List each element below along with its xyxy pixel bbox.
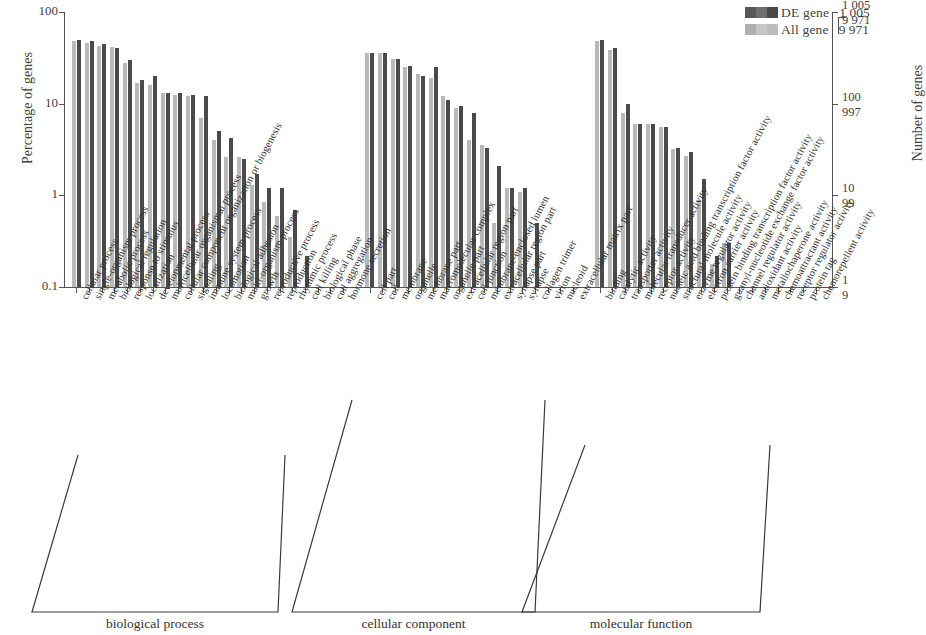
y-tick-label-right-de: 100 (842, 90, 902, 105)
y-tick-label-left: 0.1 (14, 278, 58, 294)
bar-group (402, 12, 415, 287)
bar-all-gene (85, 43, 89, 287)
x-tick-mark (600, 287, 601, 293)
bar-group (70, 12, 83, 287)
y-tick-label-right-all: 9 971 (842, 13, 902, 28)
bar-all-gene (595, 41, 599, 287)
bar-de-gene (613, 48, 617, 287)
y-tick-label-left: 10 (14, 95, 58, 111)
bar-de-gene (626, 104, 630, 287)
bar-all-gene (621, 113, 625, 287)
y-tick-label-right-all: 9 (842, 288, 902, 303)
group-name-cellular-component: cellular component (292, 616, 535, 632)
bar-group (83, 12, 96, 287)
bar-all-gene (429, 78, 433, 287)
y-tick-label-right-de: 1 (842, 273, 902, 288)
group-name-molecular-function: molecular function (522, 616, 760, 632)
y-tick-label-right-all: 997 (842, 105, 902, 120)
bar-all-gene (97, 46, 101, 287)
group-name-biological-process: biological process (32, 616, 278, 632)
bar-group (619, 12, 632, 287)
y-tick-label-left: 100 (14, 3, 58, 19)
y-tick-label-left: 1 (14, 186, 58, 202)
y-axis-title-right: Number of genes (910, 23, 926, 203)
x-tick-mark (76, 287, 77, 293)
y-tick-label-right-de: 1 005 (842, 0, 902, 13)
bar-de-gene (434, 67, 438, 287)
bar-de-gene (90, 41, 94, 287)
y-tick-mark-left (59, 287, 65, 288)
bar-group (541, 12, 554, 287)
bar-group (389, 12, 402, 287)
bar-all-gene (416, 74, 420, 287)
bar-all-gene (391, 59, 395, 287)
y-tick-mark-right (832, 195, 838, 196)
bar-de-gene (396, 59, 400, 287)
y-tick-mark-right (832, 12, 838, 13)
y-tick-label-right-de: 10 (842, 181, 902, 196)
bar-group (414, 12, 427, 287)
bar-all-gene (72, 41, 76, 287)
bar-de-gene (383, 53, 387, 287)
bar-group (427, 12, 440, 287)
bar-de-gene (77, 40, 81, 287)
y-tick-mark-right (832, 104, 838, 105)
x-tick-mark (370, 287, 371, 293)
bar-de-gene (421, 76, 425, 287)
bar-all-gene (403, 67, 407, 287)
bar-de-gene (408, 66, 412, 287)
